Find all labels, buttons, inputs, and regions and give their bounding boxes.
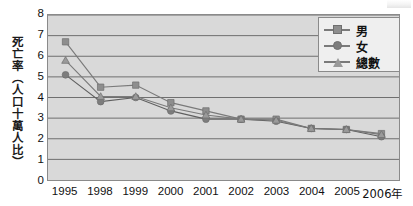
x-axis-tick-labels: 1995199819992000200120022003200420052006… [47,183,400,205]
data-point [62,71,69,78]
data-point [133,82,139,88]
x-tick-label: 1995 [52,185,78,197]
line-chart: 死亡率（人口十萬人比） 012345678 199519981999200020… [0,0,413,206]
data-point [62,39,68,45]
y-tick-label: 2 [28,133,44,144]
circle-marker-icon [324,39,350,53]
legend-label-male: 男 [356,22,368,39]
chart-legend: 男 女 總數 [318,17,400,72]
triangle-marker-icon [324,55,350,69]
x-tick-label: 2001 [193,185,219,197]
y-tick-label: 7 [28,29,44,40]
square-marker-icon [324,23,350,37]
legend-item-female: 女 [319,38,399,54]
x-tick-label: 1998 [87,185,113,197]
y-tick-label: 5 [28,71,44,82]
y-tick-label: 1 [28,154,44,165]
legend-item-total: 總數 [319,54,399,70]
y-tick-label: 3 [28,112,44,123]
x-tick-label: 1999 [122,185,148,197]
y-tick-label: 6 [28,50,44,61]
scan-artifact [387,0,411,8]
data-point [62,57,70,64]
x-tick-label: 2006年 [362,185,402,201]
x-tick-label: 2000 [158,185,184,197]
x-tick-label: 2002 [228,185,254,197]
y-tick-label: 4 [28,92,44,103]
data-point [97,84,103,90]
legend-label-female: 女 [356,38,368,55]
legend-label-total: 總數 [356,54,380,71]
y-tick-label: 8 [28,8,44,19]
x-tick-label: 2003 [264,185,290,197]
y-axis-tick-labels: 012345678 [25,0,44,206]
x-tick-label: 2005 [334,185,360,197]
y-tick-label: 0 [28,175,44,186]
series-line-女 [66,75,382,137]
legend-item-male: 男 [319,22,399,38]
y-axis-title: 死亡率（人口十萬人比） [1,16,23,188]
x-tick-label: 2004 [299,185,325,197]
